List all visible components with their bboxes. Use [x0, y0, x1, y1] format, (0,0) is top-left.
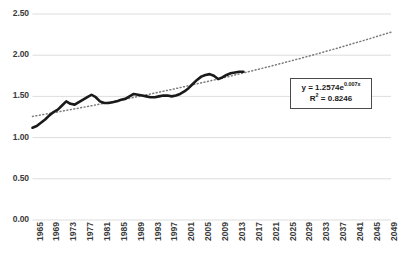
x-axis-tick-label: 2045 — [373, 222, 382, 241]
y-axis-tick-label: 2.00 — [1, 50, 29, 59]
x-axis-tick-label: 2049 — [390, 222, 399, 241]
x-axis-tick-label: 1965 — [36, 222, 45, 241]
y-axis-tick-label: 1.50 — [1, 91, 29, 100]
x-axis-tick-label: 1969 — [52, 222, 61, 241]
x-axis-tick-label: 2025 — [289, 222, 298, 241]
chart-container: 0.000.501.001.502.002.50 196519691973197… — [0, 0, 403, 264]
x-axis-tick-label: 1973 — [69, 222, 78, 241]
x-axis-tick-label: 2013 — [238, 222, 247, 241]
x-axis-tick-label: 2001 — [187, 222, 196, 241]
y-axis-tick-label: 2.50 — [1, 9, 29, 18]
x-axis-tick-label: 2041 — [356, 222, 365, 241]
x-axis-tick-label: 2021 — [272, 222, 281, 241]
trendline-equation-box: y = 1.2574e0.007x R2 = 0.8246 — [290, 78, 372, 109]
y-axis-tick-labels: 0.000.501.001.502.002.50 — [0, 0, 29, 230]
x-axis-tick-label: 2037 — [339, 222, 348, 241]
x-axis-tick-label: 2033 — [322, 222, 331, 241]
x-axis-tick-label: 2017 — [255, 222, 264, 241]
y-axis-tick-label: 0.00 — [1, 215, 29, 224]
y-axis-tick-label: 0.50 — [1, 174, 29, 183]
x-axis-tick-label: 1989 — [137, 222, 146, 241]
x-axis-tick-label: 1997 — [170, 222, 179, 241]
x-axis-tick-label: 2029 — [305, 222, 314, 241]
x-axis-tick-label: 1977 — [86, 222, 95, 241]
x-axis-tick-label: 2005 — [204, 222, 213, 241]
r-squared-text: R2 = 0.8246 — [295, 93, 367, 104]
trendline-equation-text: y = 1.2574e0.007x — [295, 82, 367, 93]
gridlines — [33, 14, 392, 220]
x-axis-tick-label: 1993 — [154, 222, 163, 241]
x-axis-tick-labels: 1965196919731977198119851989199319972001… — [32, 222, 392, 264]
x-axis-tick-label: 1981 — [103, 222, 112, 241]
x-axis-tick-label: 2009 — [221, 222, 230, 241]
x-axis-tick-label: 1985 — [120, 222, 129, 241]
y-axis-tick-label: 1.00 — [1, 133, 29, 142]
